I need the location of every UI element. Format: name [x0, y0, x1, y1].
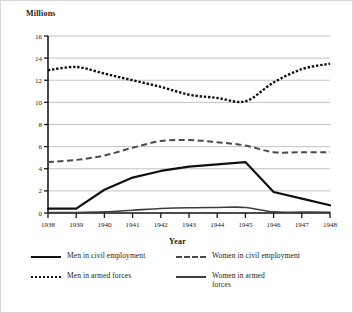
svg-text:1948: 1948	[323, 221, 338, 229]
line-dashed-icon	[176, 252, 206, 262]
series-line	[48, 207, 330, 212]
legend-label: Women in civil employment	[212, 251, 300, 260]
gridlines-group	[48, 36, 330, 213]
svg-text:4: 4	[39, 165, 43, 173]
series-line	[48, 140, 330, 162]
svg-text:10: 10	[35, 99, 43, 107]
svg-text:16: 16	[35, 33, 43, 41]
line-dotted-icon	[31, 272, 61, 282]
svg-text:1940: 1940	[97, 221, 112, 229]
x-axis-title: Year	[1, 237, 353, 246]
svg-text:2: 2	[39, 187, 43, 195]
svg-text:1943: 1943	[182, 221, 197, 229]
legend-label: Men in civil employment	[67, 251, 145, 260]
svg-text:1947: 1947	[295, 221, 310, 229]
svg-text:8: 8	[39, 121, 43, 129]
data-series-group	[48, 64, 330, 213]
legend-item-men-civil: Men in civil employment	[31, 251, 176, 262]
series-line	[48, 162, 330, 208]
svg-text:1938: 1938	[41, 221, 56, 229]
svg-text:6: 6	[39, 143, 43, 151]
svg-text:12: 12	[35, 77, 43, 85]
chart-figure: Millions 0246810121416 19381939194019411…	[0, 0, 353, 313]
legend-item-women-civil: Women in civil employment	[176, 251, 326, 262]
svg-text:0: 0	[39, 210, 43, 218]
svg-text:1942: 1942	[154, 221, 169, 229]
chart-legend: Men in civil employment Women in civil e…	[31, 251, 331, 298]
series-line	[48, 64, 330, 102]
legend-row: Men in armed forces Women in armed force…	[31, 271, 331, 289]
svg-text:1941: 1941	[126, 221, 141, 229]
svg-text:14: 14	[35, 55, 43, 63]
svg-text:1939: 1939	[69, 221, 84, 229]
y-axis-tick-labels: 0246810121416	[35, 33, 43, 218]
plot-area: 0246810121416 19381939194019411942194319…	[1, 1, 353, 233]
svg-text:1945: 1945	[238, 221, 253, 229]
legend-item-men-armed: Men in armed forces	[31, 271, 176, 282]
line-solid-thin-icon	[176, 272, 206, 282]
legend-label: Men in armed forces	[67, 271, 131, 280]
line-solid-thick-icon	[31, 252, 61, 262]
x-axis-tick-labels: 1938193919401941194219431944194519461947…	[41, 221, 338, 229]
legend-label: Women in armed forces	[212, 271, 278, 289]
legend-item-women-armed: Women in armed forces	[176, 271, 326, 289]
svg-text:1946: 1946	[267, 221, 282, 229]
legend-row: Men in civil employment Women in civil e…	[31, 251, 331, 262]
svg-text:1944: 1944	[210, 221, 225, 229]
